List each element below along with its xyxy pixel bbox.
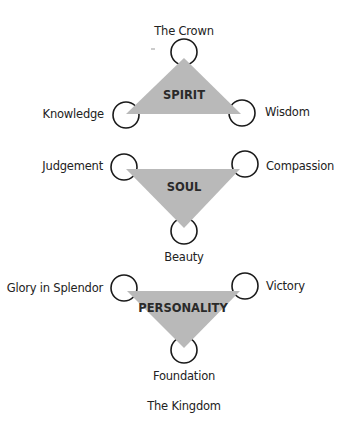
label-foundation: Foundation xyxy=(153,369,215,383)
label-glory-in-splendor: Glory in Splendor xyxy=(7,281,103,295)
soul-triangle xyxy=(126,169,240,228)
label-knowledge: Knowledge xyxy=(43,107,104,121)
soul-title: SOUL xyxy=(167,180,202,194)
label-wisdom: Wisdom xyxy=(265,105,310,119)
personality-title: PERSONALITY xyxy=(138,301,228,315)
spirit-triangle xyxy=(126,58,241,114)
label-the-crown: The Crown xyxy=(154,24,213,38)
label-judgement: Judgement xyxy=(42,159,103,173)
label-the-kingdom: The Kingdom xyxy=(147,399,221,413)
personality-triangle xyxy=(127,291,240,348)
label-compassion: Compassion xyxy=(266,159,334,173)
spirit-title: SPIRIT xyxy=(163,88,205,102)
label-victory: Victory xyxy=(266,279,305,293)
label-beauty: Beauty xyxy=(164,250,203,264)
